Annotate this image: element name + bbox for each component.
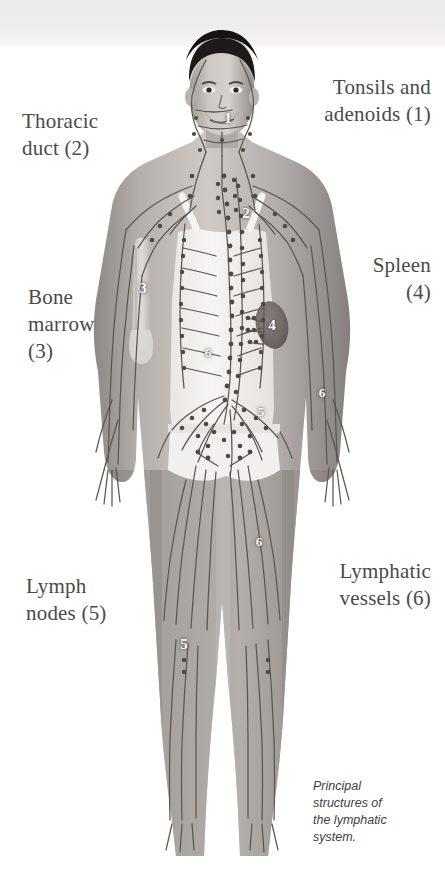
label-lymphatic-vessels: Lymphatic vessels (6) — [251, 558, 431, 612]
label-bone-marrow: Bone marrow (3) — [28, 284, 158, 365]
lymphatic-system-figure: 1 2 3 4 6 6 5 6 5 Tonsils and adenoids (… — [0, 0, 445, 889]
label-tonsils-and-adenoids: Tonsils and adenoids (1) — [241, 74, 431, 128]
label-thoracic-duct: Thoracic duct (2) — [22, 108, 202, 162]
label-spleen: Spleen (4) — [281, 252, 431, 306]
label-lymph-nodes: Lymph nodes (5) — [26, 573, 176, 627]
figure-caption: Principal structures of the lymphatic sy… — [313, 778, 433, 846]
